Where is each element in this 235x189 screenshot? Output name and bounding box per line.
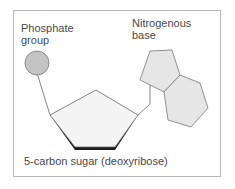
phosphate-group-circle bbox=[25, 51, 49, 75]
phosphate-label-line2: group bbox=[21, 34, 49, 46]
phosphate-bond-line bbox=[37, 73, 50, 115]
base-label-line2: base bbox=[132, 29, 156, 41]
sugar-label: 5-carbon sugar (deoxyribose) bbox=[24, 155, 168, 167]
base-label-line1: Nitrogenous bbox=[132, 17, 191, 29]
phosphate-label-line1: Phosphate bbox=[21, 22, 74, 34]
deoxyribose-pentagon bbox=[50, 90, 138, 147]
base-bond-line bbox=[138, 80, 150, 115]
